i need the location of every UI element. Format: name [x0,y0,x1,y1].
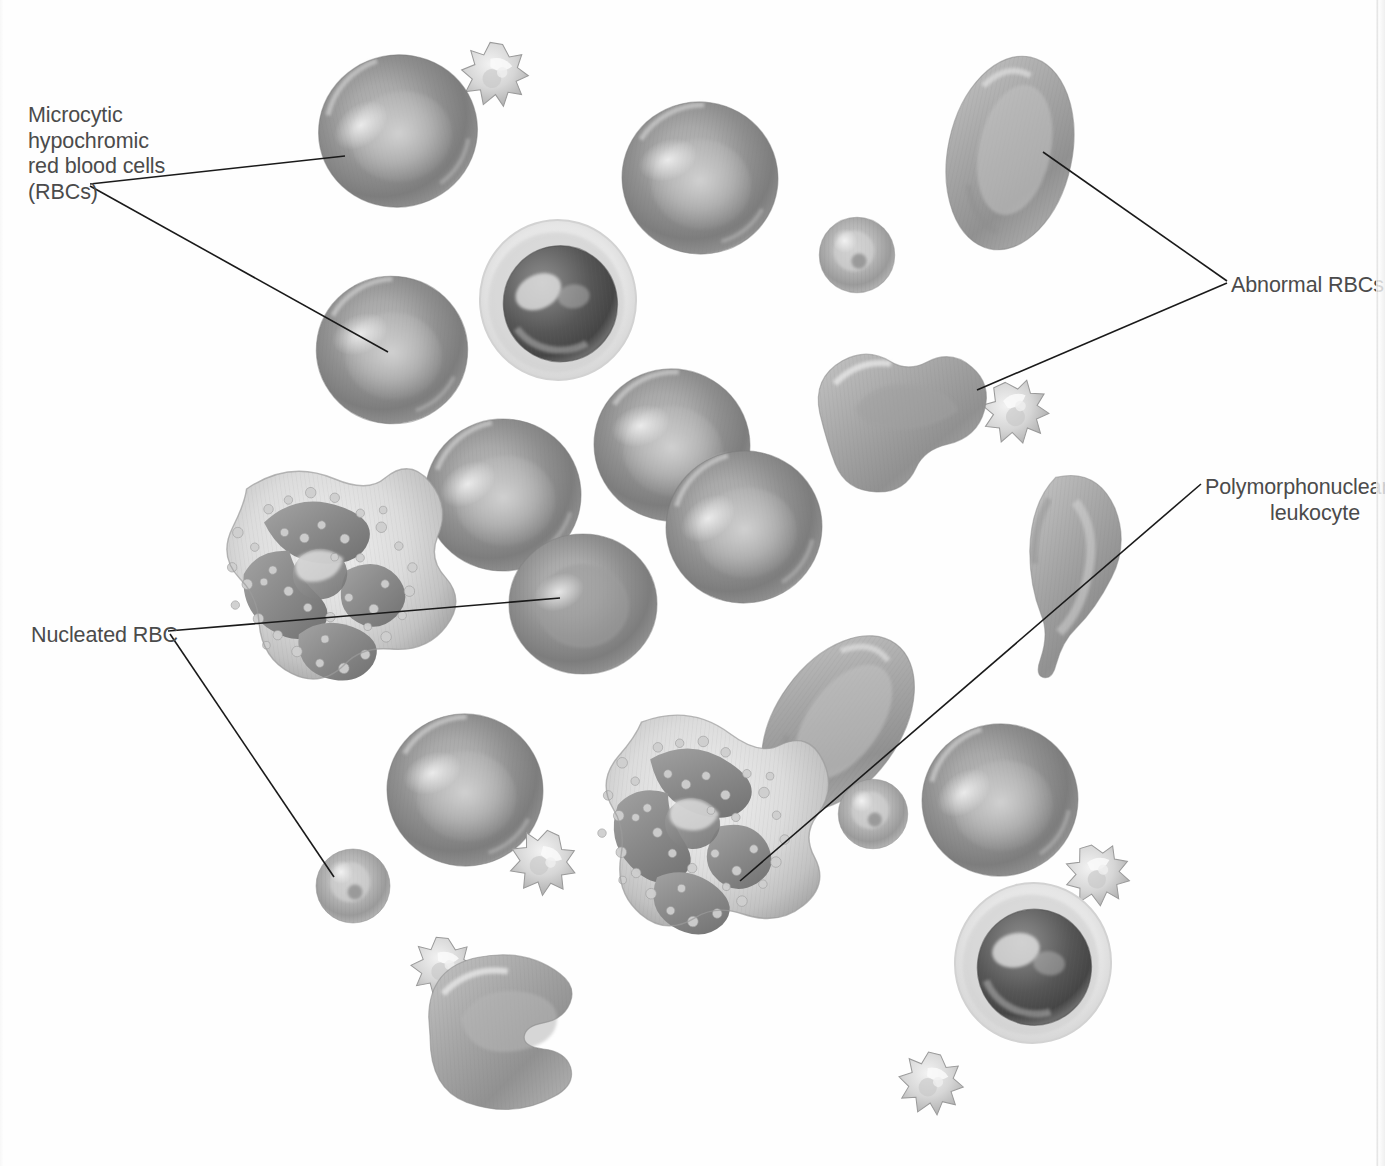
cell-microcyte-nucleated [316,849,390,923]
cell-rbc-mid-left [310,270,474,430]
cell-microcyte-upper [819,217,894,292]
cell-nucleated-rbc-upper [472,212,644,387]
cell-rbc-top-center [612,92,788,264]
cell-neutrophil-center [588,708,835,947]
cell-platelet-right-mid [974,371,1058,453]
page-edge-left-artifact [0,0,4,1166]
cell-nucleated-rbc-lower [945,873,1122,1053]
figure-canvas: Microcytic hypochromic red blood cells (… [0,0,1385,1166]
label-microcytic-hypochromic-rbcs: Microcytic hypochromic red blood cells (… [28,103,165,205]
label-nucleated-rbc: Nucleated RBC [31,623,178,649]
cell-platelet-bottom [891,1045,971,1123]
cell-bite-cell-bottom [424,950,580,1115]
page-gutter-shadow [1379,0,1385,1166]
cell-ovalocyte-top-right [929,44,1091,261]
cell-rbc-top-left [304,40,491,222]
cell-nucleated-rbc-mid [509,534,657,674]
cell-microcyte-right-low [838,779,908,849]
label-polymorphonuclear-leukocyte: Polymorphonuclear leukocyte [1205,475,1360,526]
cell-poikilocyte-right [814,342,996,498]
cell-neutrophil-left [214,451,465,695]
blood-cell-illustration [0,0,1385,1166]
label-abnormal-rbcs: Abnormal RBCs [1231,273,1384,299]
cell-rbc-right-low [910,712,1090,889]
cell-teardrop-right [1016,472,1128,684]
